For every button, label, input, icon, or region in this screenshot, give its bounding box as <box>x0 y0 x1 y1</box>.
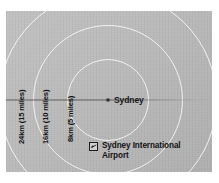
airport-icon <box>89 142 98 151</box>
legend-item-airport: Sydney International Airport <box>89 141 186 161</box>
map-plate: 24km (15 miles) 16km (10 miles) 8km (5 m… <box>6 11 212 172</box>
sydney-city-marker <box>107 99 110 102</box>
distance-ring-map-figure: 24km (15 miles) 16km (10 miles) 8km (5 m… <box>0 0 219 183</box>
map-legend: Sydney International Airport <box>89 141 186 161</box>
legend-label-airport: Sydney International Airport <box>102 141 186 161</box>
ring-label-8km: 8km (5 miles) <box>66 96 75 142</box>
ring-label-24km: 24km (15 miles) <box>17 90 26 144</box>
sydney-city-label: Sydney <box>114 95 144 105</box>
ring-label-16km: 16km (10 miles) <box>41 90 50 144</box>
